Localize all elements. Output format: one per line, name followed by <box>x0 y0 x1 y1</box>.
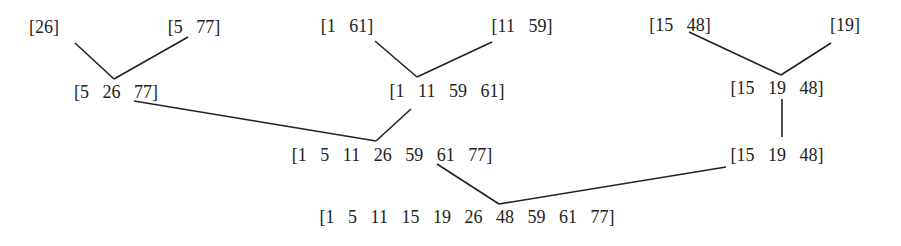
edge-n11_59-to-n1_11_59_61 <box>417 42 492 77</box>
node-5-26-77: [5 26 77] <box>74 82 158 102</box>
node-5-77: [5 77] <box>168 17 221 37</box>
edge-n1_11_59_61-to-n7 <box>376 109 411 141</box>
node-final-sorted: [1 5 11 15 19 26 48 59 61 77] <box>320 207 615 227</box>
edge-n15_19_48_b-to-final <box>499 167 726 204</box>
merge-sort-diagram: [26] [5 77] [1 61] [11 59] [15 48] [19] … <box>0 0 901 246</box>
edge-n5_26_77-to-n7 <box>134 101 376 141</box>
edge-n7-to-final <box>437 164 499 204</box>
edge-n1_61-to-n1_11_59_61 <box>375 41 417 77</box>
node-11-59: [11 59] <box>492 16 553 36</box>
node-19: [19] <box>830 15 860 35</box>
node-15-48: [15 48] <box>649 15 711 35</box>
edge-n19-to-n15_19_48_a <box>781 43 831 75</box>
node-1-61: [1 61] <box>321 16 374 36</box>
node-15-19-48-upper: [15 19 48] <box>731 78 824 98</box>
node-15-19-48-lower: [15 19 48] <box>731 145 824 165</box>
node-1-11-59-61: [1 11 59 61] <box>390 81 505 101</box>
node-26: [26] <box>29 17 59 37</box>
edge-n15_48-to-n15_19_48_a <box>689 32 781 75</box>
node-seven-merged: [1 5 11 26 59 61 77] <box>292 145 492 165</box>
edge-n26-to-n5_26_77 <box>75 43 114 79</box>
edge-n5_77-to-n5_26_77 <box>114 37 188 79</box>
